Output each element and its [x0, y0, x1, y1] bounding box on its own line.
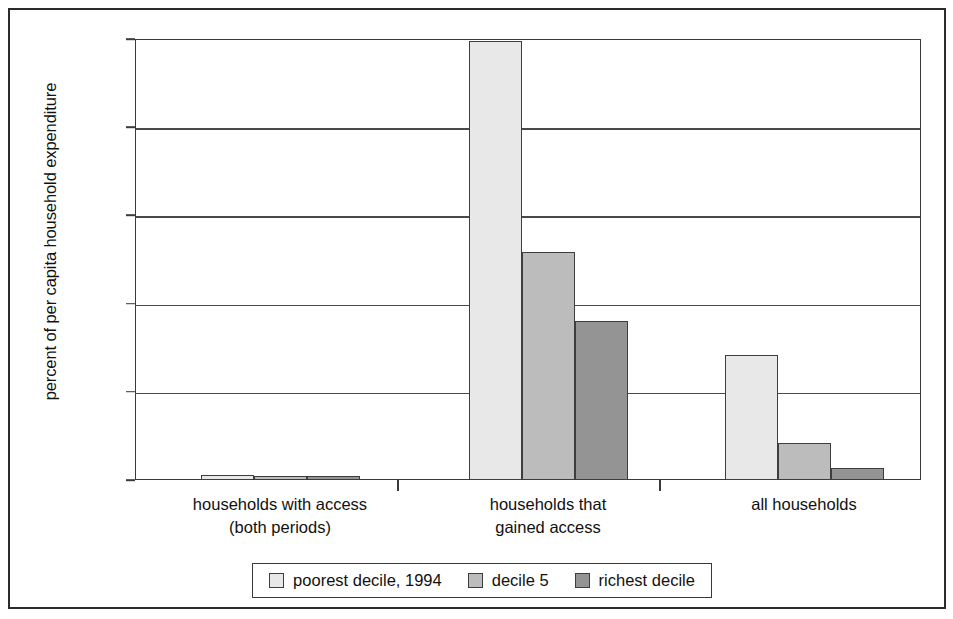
x-axis-category-label: all households — [673, 493, 935, 516]
legend-item[interactable]: richest decile — [575, 571, 695, 590]
legend-item-label: poorest decile, 1994 — [293, 571, 442, 590]
chart-figure: percent of per capita household expendit… — [0, 0, 953, 619]
legend-item[interactable]: poorest decile, 1994 — [269, 571, 442, 590]
x-axis-tick-mark — [397, 480, 399, 491]
legend-swatch-icon — [468, 573, 483, 588]
legend-item-label: richest decile — [599, 571, 695, 590]
category-label-line: households with access — [149, 493, 411, 516]
gridline — [136, 216, 920, 217]
gridline — [136, 305, 920, 306]
y-axis-tick-mark — [126, 479, 135, 481]
y-axis-tick-mark — [126, 215, 135, 217]
chart-legend: poorest decile, 1994decile 5richest deci… — [252, 563, 712, 598]
plot-area — [135, 39, 921, 480]
y-axis-title: percent of per capita household expendit… — [41, 22, 60, 462]
y-axis-tick-mark — [126, 303, 135, 305]
y-axis-tick-mark — [126, 38, 135, 40]
legend-swatch-icon — [575, 573, 590, 588]
legend-item-label: decile 5 — [492, 571, 549, 590]
y-axis-tick-mark — [126, 391, 135, 393]
category-label-line: all households — [673, 493, 935, 516]
category-label-line: households that — [417, 493, 679, 516]
x-axis-category-label: households thatgained access — [417, 493, 679, 539]
x-axis-tick-mark — [659, 480, 661, 491]
x-axis-category-label: households with access(both periods) — [149, 493, 411, 539]
gridline — [136, 393, 920, 394]
legend-item[interactable]: decile 5 — [468, 571, 549, 590]
plot-wrapper: percent of per capita household expendit… — [0, 0, 953, 619]
legend-swatch-icon — [269, 573, 284, 588]
gridline — [136, 128, 920, 129]
y-axis-tick-mark — [126, 126, 135, 128]
category-label-line: gained access — [417, 516, 679, 539]
category-label-line: (both periods) — [149, 516, 411, 539]
